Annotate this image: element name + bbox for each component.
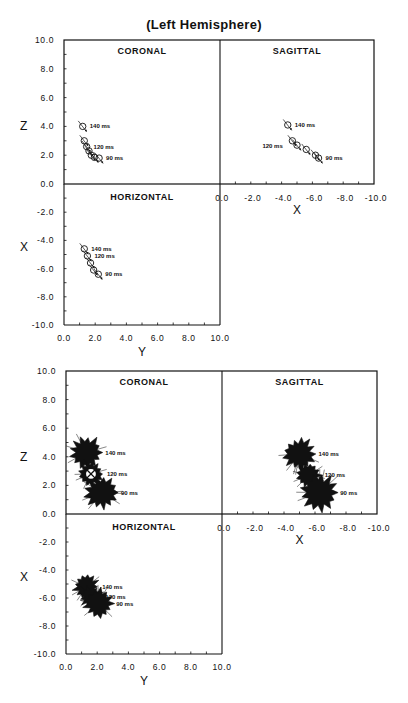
x-axis-label-sagittal: X	[295, 533, 303, 547]
x-tick-label: -2.0	[246, 523, 263, 533]
x-tick-label: -6.0	[37, 264, 54, 274]
x-tick-label: 0.0	[215, 193, 229, 203]
y-tick-label: 4.0	[120, 333, 134, 343]
panel-horizontal-data: 140 ms120 ms90 ms	[71, 575, 134, 619]
panel-coronal-data: 140 ms120 ms90 ms	[78, 121, 124, 164]
panel-label-horizontal: HORIZONTAL	[112, 522, 175, 532]
time-label: 90 ms	[116, 601, 134, 607]
y-tick-label: 6.0	[151, 333, 165, 343]
time-label: 120 ms	[325, 472, 346, 478]
x-tick-label: -4.0	[39, 565, 56, 575]
z-tick-label: 8.0	[42, 395, 56, 405]
x-tick-label: -8.0	[337, 193, 354, 203]
chart-1: 10.08.06.04.02.00.0-2.0-4.0-6.0-8.0-10.0…	[20, 35, 387, 359]
y-tick-label: 0.0	[57, 333, 71, 343]
x-tick-label: -8.0	[37, 292, 54, 302]
panel-label-horizontal: HORIZONTAL	[110, 192, 173, 202]
panel-sagittal-data: 140 ms120 ms90 ms	[262, 119, 343, 163]
z-tick-label: 0.0	[40, 179, 54, 189]
panel-label-coronal: CORONAL	[120, 377, 169, 387]
x-tick-label: -8.0	[339, 523, 356, 533]
time-label: 120 ms	[107, 471, 128, 477]
y-tick-label: 10.0	[213, 662, 232, 672]
z-tick-label: 10.0	[37, 366, 56, 376]
time-label: 140 ms	[91, 246, 112, 252]
time-label: 90 ms	[106, 155, 124, 161]
z-tick-label: 6.0	[42, 423, 56, 433]
time-label: 140 ms	[319, 451, 340, 457]
x-tick-label: -2.0	[39, 537, 56, 547]
y-axis-label: Y	[138, 345, 146, 359]
x-tick-label: -10.0	[365, 193, 387, 203]
panel-label-sagittal: SAGITTAL	[273, 46, 321, 56]
x-tick-label: -6.0	[308, 523, 325, 533]
y-axis-label: Y	[140, 674, 148, 688]
z-tick-label: 4.0	[40, 121, 54, 131]
time-label: 90 ms	[121, 490, 139, 496]
z-tick-label: 8.0	[40, 64, 54, 74]
x-tick-label: -2.0	[244, 193, 261, 203]
x-axis-label-sagittal: X	[293, 203, 301, 217]
y-tick-label: 2.0	[88, 333, 102, 343]
x-tick-label: -6.0	[39, 593, 56, 603]
x-tick-label: -10.0	[368, 523, 390, 533]
z-axis-label: Z	[20, 119, 27, 133]
panel-label-sagittal: SAGITTAL	[275, 377, 323, 387]
z-tick-label: 10.0	[35, 35, 54, 45]
x-tick-label: -4.0	[277, 523, 294, 533]
y-tick-label: 8.0	[184, 662, 198, 672]
z-tick-label: 2.0	[40, 150, 54, 160]
y-tick-label: 10.0	[211, 333, 230, 343]
time-label: 90 ms	[326, 155, 344, 161]
chart-2: 10.08.06.04.02.00.0-2.0-4.0-6.0-8.0-10.0…	[20, 366, 390, 688]
z-tick-label: 0.0	[42, 509, 56, 519]
y-tick-label: 8.0	[182, 333, 196, 343]
y-tick-label: 4.0	[122, 662, 136, 672]
panel-coronal-data: 140 ms120 ms90 ms	[66, 434, 138, 510]
z-tick-label: 2.0	[42, 480, 56, 490]
x-tick-label: -10.0	[32, 320, 54, 330]
figure-canvas: 10.08.06.04.02.00.0-2.0-4.0-6.0-8.0-10.0…	[0, 0, 408, 703]
y-tick-label: 0.0	[59, 662, 73, 672]
dipole-cluster	[300, 475, 338, 513]
z-axis-label: Z	[20, 450, 27, 464]
z-tick-label: 4.0	[42, 452, 56, 462]
panel-horizontal-data: 140 ms120 ms90 ms	[80, 243, 123, 279]
time-label: 120 ms	[94, 144, 115, 150]
panel-sagittal-data: 140 ms120 ms90 ms	[278, 437, 357, 513]
time-label: 140 ms	[90, 123, 111, 129]
x-axis-label: X	[20, 240, 28, 254]
x-tick-label: -4.0	[37, 235, 54, 245]
x-tick-label: -2.0	[37, 207, 54, 217]
x-tick-label: -4.0	[275, 193, 292, 203]
x-axis-label: X	[20, 570, 28, 584]
time-label: 140 ms	[105, 450, 126, 456]
time-label: 140 ms	[295, 122, 316, 128]
x-tick-label: 0.0	[217, 523, 231, 533]
x-tick-label: -8.0	[39, 621, 56, 631]
panel-label-coronal: CORONAL	[118, 46, 167, 56]
time-label: 90 ms	[105, 271, 123, 277]
y-tick-label: 6.0	[153, 662, 167, 672]
time-label: 120 ms	[94, 253, 115, 259]
x-tick-label: -6.0	[306, 193, 323, 203]
time-label: 120 ms	[262, 143, 283, 149]
z-tick-label: 6.0	[40, 93, 54, 103]
x-tick-label: -10.0	[34, 649, 56, 659]
y-tick-label: 2.0	[90, 662, 104, 672]
time-label: 90 ms	[340, 490, 358, 496]
upper-frame	[64, 40, 374, 184]
time-label: 140 ms	[102, 584, 123, 590]
